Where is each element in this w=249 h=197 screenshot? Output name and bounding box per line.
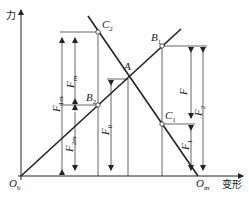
- c1-label: C1: [165, 110, 176, 124]
- origin-member-label: Om: [196, 178, 209, 192]
- f1m-label: F1m: [51, 96, 65, 112]
- origin-bolt-label: Ob: [9, 178, 20, 192]
- point-c1: [160, 122, 164, 126]
- b1-label: B1: [151, 32, 161, 46]
- c2-label: C2: [102, 19, 113, 33]
- point-b2: [96, 103, 100, 107]
- y-axis-label: 力: [6, 11, 16, 21]
- member-line: [88, 16, 198, 176]
- bolt-line: [21, 29, 181, 176]
- a-label: A: [124, 61, 131, 72]
- f-label: F: [178, 88, 189, 95]
- point-c2: [96, 30, 100, 34]
- f0-label: F0: [100, 125, 114, 135]
- force-deformation-diagram: 力 变形 Ob Om C2 B1 A B2 C1 Fm F1m F2m F0 F…: [0, 0, 249, 197]
- f2-label: F2: [193, 106, 207, 116]
- f2m-label: F2m: [64, 136, 78, 152]
- diagram-graphics: [0, 0, 249, 197]
- x-axis-label: 变形: [222, 180, 242, 190]
- b2-label: B2: [86, 92, 96, 106]
- f1-label: F1: [180, 140, 194, 150]
- fm-label: Fm: [65, 76, 79, 88]
